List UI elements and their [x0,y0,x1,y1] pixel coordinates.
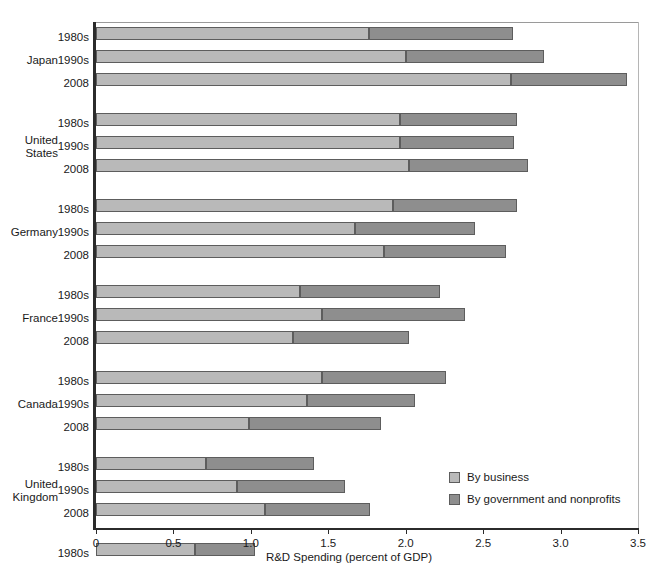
bar-segment-government [400,136,515,149]
period-label: 2008 [3,163,89,176]
bar-segment-government [409,159,528,172]
x-axis-tick [96,528,97,534]
x-axis-tick-label: 3.0 [553,536,569,550]
bar-segment-government [206,457,314,470]
period-label: 1980s [3,31,89,44]
period-label: 2008 [3,421,89,434]
bar-segment-business [96,308,322,321]
period-label-column: 1980s1990s20081980s1990s20081980s1990s20… [0,0,89,566]
period-label: 1990s [3,226,89,239]
legend-item: By government and nonprofits [449,488,639,510]
bar-segment-government [237,480,345,493]
bar-segment-government [322,371,446,384]
x-axis-title: R&D Spending (percent of GDP) [0,551,653,563]
bar-segment-business [96,394,307,407]
x-axis-tick [406,528,407,534]
legend-swatch [449,472,460,483]
bar-segment-business [96,245,384,258]
bar-segment-business [96,50,406,63]
period-label: 2008 [3,335,89,348]
bar-segment-business [96,285,300,298]
bar-segment-government [249,417,381,430]
bars-area [96,22,638,528]
x-axis-tick-label: 1.0 [243,536,259,550]
period-label: 1990s [3,484,89,497]
legend-swatch [449,494,460,505]
x-axis-tick-label: 0 [93,536,99,550]
bar-segment-business [96,331,293,344]
bar-segment-government [400,113,518,126]
bar-segment-government [406,50,544,63]
x-axis-tick [328,528,329,534]
bar-segment-government [393,199,517,212]
legend-label: By government and nonprofits [467,493,620,505]
bar-segment-business [96,457,206,470]
bar-segment-government [355,222,476,235]
legend-item: By business [449,466,639,488]
bar-segment-business [96,222,355,235]
period-label: 1990s [3,312,89,325]
rd-spending-chart: JapanUnitedStatesGermanyFranceCanadaUnit… [0,0,653,566]
period-label: 1980s [3,289,89,302]
period-label: 1980s [3,117,89,130]
bar-segment-government [384,245,506,258]
x-axis-title-text: R&D Spending (percent of GDP) [266,551,432,563]
bar-segment-business [96,113,400,126]
x-axis-tick-label: 3.5 [630,536,646,550]
bar-segment-business [96,136,400,149]
period-label: 2008 [3,507,89,520]
bar-segment-government [307,394,415,407]
bar-segment-business [96,371,322,384]
bar-segment-government [293,331,409,344]
bar-segment-government [265,503,370,516]
period-label: 1990s [3,54,89,67]
period-label: 2008 [3,77,89,90]
x-axis-tick-label: 0.5 [165,536,181,550]
bar-segment-business [96,480,237,493]
x-axis-tick-label: 2.5 [475,536,491,550]
plot-frame-right [638,22,639,529]
bar-segment-government [322,308,464,321]
x-axis-line [93,528,639,530]
period-label: 1980s [3,203,89,216]
x-axis-tick [483,528,484,534]
legend-label: By business [467,471,529,483]
period-label: 1980s [3,461,89,474]
x-axis-tick [251,528,252,534]
bar-segment-business [96,159,409,172]
x-axis-tick [638,528,639,534]
period-label: 2008 [3,249,89,262]
bar-segment-government [369,27,513,40]
bar-segment-business [96,27,369,40]
x-axis-tick [561,528,562,534]
period-label: 1990s [3,398,89,411]
x-axis-tick-label: 1.5 [320,536,336,550]
x-axis-tick-label: 2.0 [398,536,414,550]
bar-segment-business [96,503,265,516]
bar-segment-government [511,73,627,86]
period-label: 1990s [3,140,89,153]
period-label: 1980s [3,375,89,388]
chart-legend: By businessBy government and nonprofits [449,466,639,510]
x-axis-tick [173,528,174,534]
bar-segment-business [96,199,393,212]
bar-segment-business [96,417,249,430]
bar-segment-government [300,285,439,298]
bar-segment-business [96,73,511,86]
